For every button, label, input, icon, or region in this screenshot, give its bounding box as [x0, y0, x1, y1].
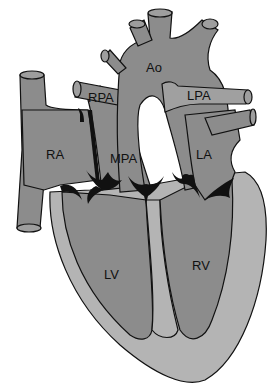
- aorta-branch-left-opening: [101, 50, 109, 62]
- lpa-opening: [244, 90, 252, 104]
- label-mpa: MPA: [110, 151, 138, 166]
- label-lv: LV: [104, 267, 119, 282]
- label-rpa: RPA: [88, 90, 114, 105]
- label-lpa: LPA: [187, 88, 211, 103]
- mitral-valve-node: [182, 174, 190, 182]
- pulmonary-vein-opening: [250, 109, 256, 125]
- rpa-opening: [73, 81, 81, 97]
- aorta-branch-right-opening: [202, 19, 218, 29]
- heart-diagram: Ao RPA LPA RA MPA LA LV RV: [0, 0, 270, 386]
- vena-cava-top-opening: [20, 71, 44, 79]
- label-rv: RV: [192, 258, 210, 273]
- aorta-branch-top-opening: [148, 9, 172, 17]
- label-ao: Ao: [146, 60, 162, 75]
- aorta-branch-mid-opening: [129, 20, 145, 28]
- vena-cava-bottom-opening: [17, 224, 41, 232]
- label-la: LA: [196, 147, 212, 162]
- label-ra: RA: [46, 147, 64, 162]
